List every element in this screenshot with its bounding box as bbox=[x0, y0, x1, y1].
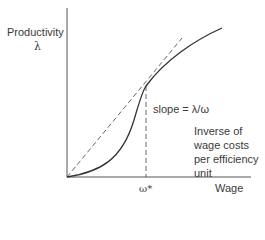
slope-label: slope = λ/ω bbox=[153, 103, 209, 116]
x-tick-label-omega-star: ω* bbox=[139, 182, 152, 195]
annotation-line-4: unit bbox=[194, 167, 212, 180]
y-axis-symbol: λ bbox=[34, 40, 41, 53]
annotation-line-2: wage costs bbox=[194, 139, 249, 152]
y-axis-label: Productivity bbox=[7, 26, 64, 39]
x-axis-label: Wage bbox=[215, 182, 243, 195]
annotation-line-1: Inverse of bbox=[194, 125, 242, 138]
annotation-line-3: per efficiency bbox=[194, 153, 259, 166]
